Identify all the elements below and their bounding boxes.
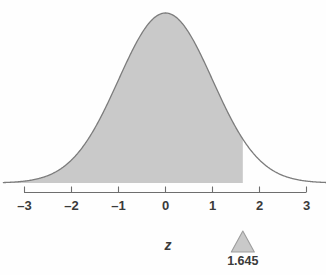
shaded-area-under-curve xyxy=(3,13,242,183)
x-axis-tick-label: –3 xyxy=(5,198,45,213)
threshold-value-label: 1.645 xyxy=(213,254,273,268)
normal-distribution-chart: –3–2–10123 z 1.645 xyxy=(0,0,326,275)
threshold-triangle-marker xyxy=(231,231,254,252)
x-axis-ticks xyxy=(25,187,307,193)
x-axis-tick-label: –1 xyxy=(99,198,139,213)
x-axis-tick-label: 2 xyxy=(240,198,280,213)
x-axis-tick-label: –2 xyxy=(52,198,92,213)
x-axis-tick-label: 3 xyxy=(287,198,326,213)
x-axis-title: z xyxy=(148,237,188,253)
chart-canvas xyxy=(0,0,326,275)
x-axis-tick-label: 1 xyxy=(193,198,233,213)
x-axis-tick-label: 0 xyxy=(146,198,186,213)
